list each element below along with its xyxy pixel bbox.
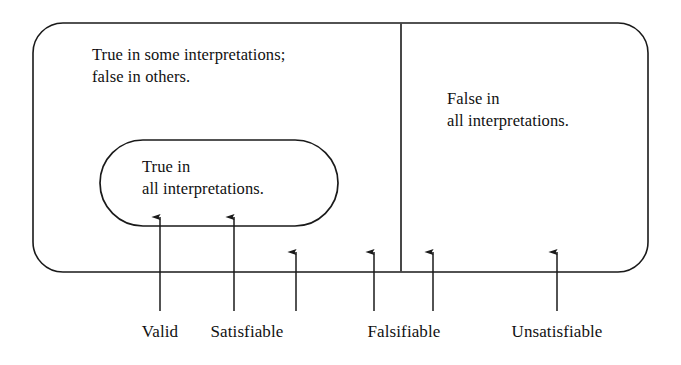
label-falsifiable: Falsifiable bbox=[368, 322, 441, 342]
label-valid: Valid bbox=[142, 322, 178, 342]
inner-region-label: True in all interpretations. bbox=[142, 156, 264, 200]
outer-region-label: True in some interpretations; false in o… bbox=[92, 44, 285, 88]
logic-venn-diagram: True in some interpretations; false in o… bbox=[0, 0, 681, 365]
label-unsatisfiable: Unsatisfiable bbox=[512, 322, 603, 342]
label-satisfiable: Satisfiable bbox=[211, 322, 284, 342]
right-region-label: False in all interpretations. bbox=[447, 88, 569, 132]
